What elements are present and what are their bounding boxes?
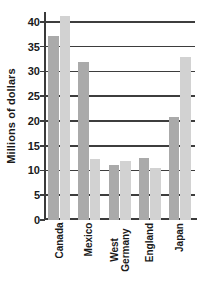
bar-group bbox=[169, 12, 191, 220]
bar bbox=[78, 62, 89, 220]
plot-area bbox=[44, 12, 195, 220]
y-axis-tick bbox=[40, 219, 45, 221]
bar bbox=[139, 158, 150, 220]
bar bbox=[169, 117, 180, 220]
x-axis-category-label-line: West bbox=[108, 238, 119, 262]
y-axis-tick-label: 40 bbox=[28, 16, 40, 27]
y-axis-tick-label: 35 bbox=[28, 41, 40, 52]
x-axis-category-label-line: Germany bbox=[119, 228, 130, 271]
y-axis-tick-label: 25 bbox=[28, 91, 40, 102]
x-axis-category-label: WestGermany bbox=[104, 222, 134, 290]
y-axis-tick-label: 30 bbox=[28, 66, 40, 77]
bar bbox=[120, 161, 131, 220]
y-axis-tick bbox=[40, 71, 45, 73]
y-axis-title: Millions of dollars bbox=[0, 0, 22, 232]
bar-group bbox=[109, 12, 131, 220]
y-axis-tick-label: 10 bbox=[28, 165, 40, 176]
bar bbox=[109, 165, 120, 220]
y-axis-tick-labels: 0510152025303540 bbox=[20, 0, 40, 232]
x-axis-category-labels: CanadaMexicoWestGermanyEnglandJapan bbox=[44, 222, 197, 293]
bar-chart: Millions of dollars 0510152025303540 Can… bbox=[0, 0, 210, 293]
y-axis-title-text: Millions of dollars bbox=[5, 68, 17, 163]
bar bbox=[48, 36, 59, 220]
y-axis-tick bbox=[40, 170, 45, 172]
bar-group bbox=[139, 12, 161, 220]
x-axis-category-label: Mexico bbox=[74, 222, 104, 290]
bar bbox=[60, 16, 71, 220]
bar bbox=[150, 168, 161, 220]
x-axis-category-label: Canada bbox=[44, 222, 74, 290]
x-axis-category-label: England bbox=[135, 222, 165, 290]
y-axis-tick bbox=[40, 120, 45, 122]
y-axis-tick bbox=[40, 194, 45, 196]
y-axis-tick bbox=[40, 21, 45, 23]
y-axis-tick bbox=[40, 95, 45, 97]
y-axis-tick bbox=[40, 46, 45, 48]
y-axis-tick bbox=[40, 145, 45, 147]
x-axis-category-label: Japan bbox=[165, 222, 195, 290]
y-axis-tick-label: 20 bbox=[28, 115, 40, 126]
bar-group bbox=[48, 12, 70, 220]
bar bbox=[90, 159, 101, 220]
bar-group bbox=[78, 12, 100, 220]
bar bbox=[180, 57, 191, 220]
y-axis-tick-label: 15 bbox=[28, 140, 40, 151]
